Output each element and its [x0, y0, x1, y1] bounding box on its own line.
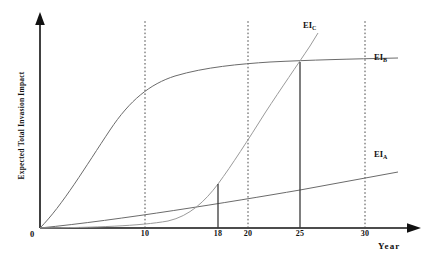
curve-eia: [40, 172, 398, 228]
y-axis-arrowhead: [35, 12, 45, 25]
x-tick-label-30: 30: [361, 229, 370, 238]
series-label-eia: EIA: [374, 149, 387, 159]
y-axis-title: Expected Total Invasion Impact: [17, 66, 26, 186]
x-tick-label-25: 25: [296, 229, 305, 238]
series-label-eia-base: EI: [374, 149, 383, 159]
series-label-eic-base: EI: [303, 20, 312, 30]
chart-figure: 0 10 18 20 25 30 Year Expected Total Inv…: [0, 0, 437, 261]
x-tick-label-10: 10: [141, 229, 150, 238]
x-tick-label-18: 18: [214, 229, 223, 238]
x-tick-label-20: 20: [244, 229, 253, 238]
series-label-eib-sub: B: [383, 57, 387, 63]
x-axis-title: Year: [378, 241, 400, 251]
axis-origin-label: 0: [30, 229, 34, 239]
series-label-eic-sub: C: [312, 25, 316, 31]
curve-eib: [40, 58, 398, 228]
series-label-eia-sub: A: [383, 154, 387, 160]
chart-plot-area: [0, 0, 437, 261]
x-axis-arrowhead: [407, 223, 421, 233]
series-label-eic: EIC: [303, 20, 316, 30]
series-label-eib-base: EI: [374, 52, 383, 62]
series-label-eib: EIB: [374, 52, 387, 62]
curve-eic: [40, 33, 318, 228]
